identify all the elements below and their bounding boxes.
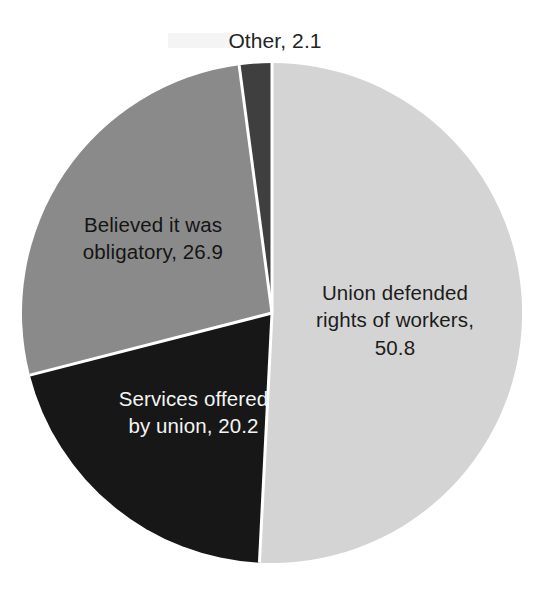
pie-label-services-offered: Services offered by union, 20.2: [86, 385, 301, 440]
pie-chart: Other, 2.1 Union defended rights of work…: [0, 0, 543, 595]
pie-label-union-defended: Union defended rights of workers, 50.8: [300, 279, 490, 361]
pie-label-believed-obligatory: Believed it was obligatory, 26.9: [48, 211, 258, 266]
pie-label-other: Other, 2.1: [150, 27, 400, 55]
